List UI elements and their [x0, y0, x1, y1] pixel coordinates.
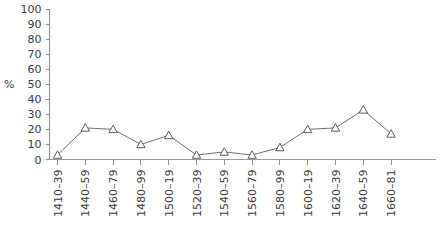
y-axis-ticks: 0102030405060708090100 — [21, 3, 50, 167]
x-tick-label: 1620–39 — [330, 170, 343, 218]
x-tick-label: 1660–81 — [385, 170, 398, 218]
series-markers — [53, 106, 395, 159]
x-tick-label: 1520–39 — [191, 170, 204, 218]
data-point-marker — [331, 124, 339, 131]
x-tick-label: 1640–59 — [357, 170, 370, 218]
line-chart-plot: 0102030405060708090100 1410–391440–59146… — [0, 0, 447, 236]
y-tick-label: 100 — [21, 3, 42, 16]
y-tick-label: 50 — [28, 78, 42, 91]
y-tick-label: 90 — [28, 18, 42, 31]
y-tick-label: 20 — [28, 123, 42, 136]
data-point-marker — [165, 131, 173, 138]
x-axis-ticks — [58, 160, 392, 165]
x-tick-label: 1500–19 — [163, 170, 176, 218]
x-tick-label: 1560–79 — [246, 170, 259, 218]
y-tick-label: 10 — [28, 138, 42, 151]
data-point-marker — [220, 148, 228, 155]
y-tick-label: 80 — [28, 33, 42, 46]
data-point-marker — [359, 106, 367, 113]
x-tick-label: 1480–99 — [135, 170, 148, 218]
data-point-marker — [81, 124, 89, 131]
y-tick-label: 60 — [28, 63, 42, 76]
y-tick-label: 70 — [28, 48, 42, 61]
x-axis-tick-labels: 1410–391440–591460–791480–991500–191520–… — [52, 170, 399, 218]
x-tick-label: 1540–59 — [218, 170, 231, 218]
x-tick-label: 1580–99 — [274, 170, 287, 218]
data-point-marker — [276, 143, 284, 150]
x-tick-label: 1460–79 — [107, 170, 120, 218]
y-tick-label: 30 — [28, 108, 42, 121]
y-tick-label: 40 — [28, 93, 42, 106]
chart-container: % 0102030405060708090100 1410–391440–591… — [0, 0, 447, 236]
y-tick-label: 0 — [35, 154, 42, 167]
x-tick-label: 1440–59 — [79, 170, 92, 218]
x-tick-label: 1410–39 — [52, 170, 65, 218]
x-tick-label: 1600–19 — [302, 170, 315, 218]
